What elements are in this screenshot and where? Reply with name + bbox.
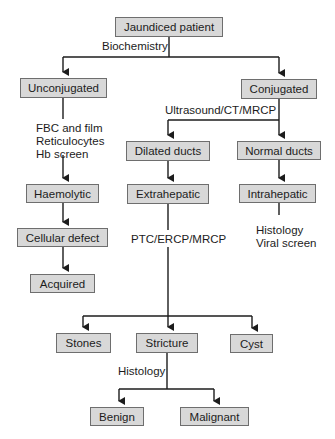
node-label: Dilated ducts: [135, 145, 201, 157]
node-unconjugated: Unconjugated: [20, 78, 107, 98]
node-label: Stricture: [146, 337, 189, 349]
edge-label-line: Histology: [256, 224, 317, 237]
node-stricture: Stricture: [136, 333, 198, 353]
node-cellular-defect: Cellular defect: [17, 228, 108, 247]
node-extrahepatic: Extrahepatic: [127, 184, 209, 204]
node-label: Cyst: [240, 338, 263, 350]
node-label: Unconjugated: [28, 82, 99, 94]
node-dilated-ducts: Dilated ducts: [126, 141, 210, 161]
node-acquired: Acquired: [30, 274, 95, 293]
node-label: Extrahepatic: [136, 188, 200, 200]
node-label: Conjugated: [250, 83, 309, 95]
node-conjugated: Conjugated: [241, 79, 317, 99]
edge-label-intra-tests: Histology Viral screen: [256, 224, 317, 250]
node-jaundiced-patient: Jaundiced patient: [115, 17, 223, 37]
node-label: Haemolytic: [34, 188, 91, 200]
node-stones: Stones: [56, 333, 111, 353]
edge-label-ptc: PTC/ERCP/MRCP: [131, 233, 226, 246]
node-cyst: Cyst: [230, 334, 273, 353]
node-label: Acquired: [40, 278, 85, 290]
edge-label-line: Hb screen: [36, 148, 104, 161]
node-intrahepatic: Intrahepatic: [239, 184, 316, 203]
edge-label-line: Viral screen: [256, 237, 317, 250]
edge-label-ultrasound: Ultrasound/CT/MRCP: [165, 104, 276, 117]
edge-label-biochemistry: Biochemistry: [102, 40, 168, 53]
connector-lines: [0, 0, 335, 439]
node-label: Benign: [99, 411, 135, 423]
node-label: Jaundiced patient: [124, 21, 214, 33]
node-benign: Benign: [90, 407, 144, 426]
node-label: Intrahepatic: [247, 188, 307, 200]
node-label: Cellular defect: [26, 232, 100, 244]
edge-label-line: FBC and film: [36, 122, 104, 135]
node-normal-ducts: Normal ducts: [237, 141, 321, 160]
edge-label-histology: Histology: [118, 365, 165, 378]
node-malignant: Malignant: [180, 407, 249, 426]
node-label: Malignant: [190, 411, 240, 423]
node-haemolytic: Haemolytic: [26, 184, 99, 203]
node-label: Stones: [66, 337, 102, 349]
edge-label-fbc: FBC and film Reticulocytes Hb screen: [36, 122, 104, 161]
edge-label-line: Reticulocytes: [36, 135, 104, 148]
node-label: Normal ducts: [245, 145, 313, 157]
